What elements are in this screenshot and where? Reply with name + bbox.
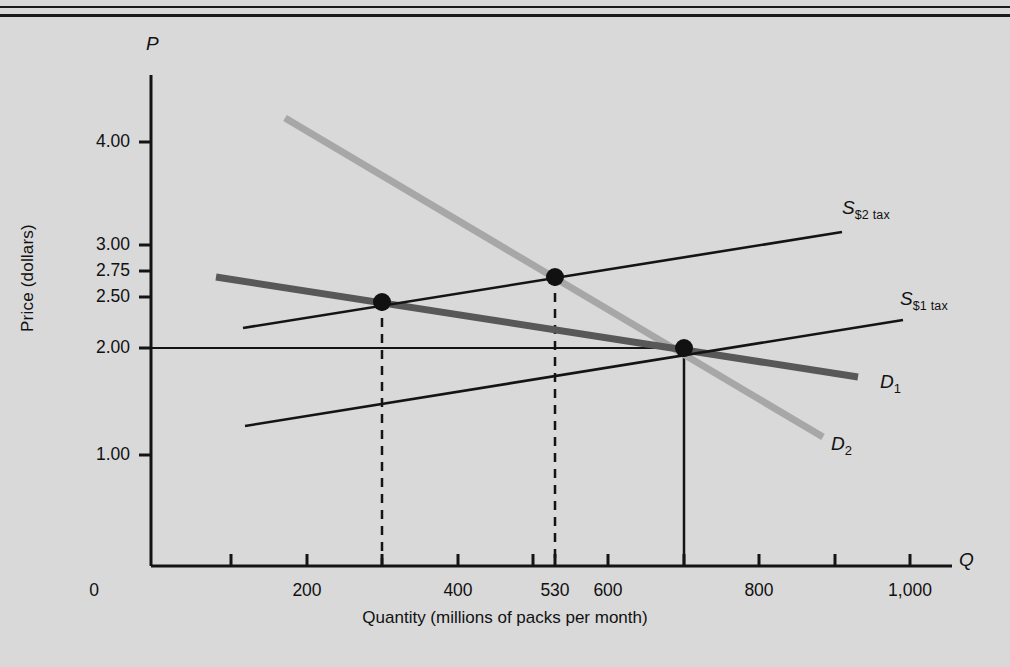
x-tick-label-600: 600 bbox=[578, 580, 638, 601]
x-tick-label-530: 530 bbox=[525, 580, 585, 601]
x-tick-label-1000: 1,000 bbox=[875, 580, 945, 601]
curve-label-S-2-tax: S$2 tax bbox=[842, 197, 890, 222]
x-tick-label-800: 800 bbox=[729, 580, 789, 601]
equilibrium-point-530-2.75 bbox=[546, 268, 564, 286]
curve-label-D2-sub: 2 bbox=[845, 443, 852, 458]
y-tick-label-3.00: 3.00 bbox=[26, 234, 130, 255]
y-tick-label-4.00: 4.00 bbox=[26, 131, 130, 152]
curve-label-D1-sub: 1 bbox=[894, 381, 901, 396]
y-tick-label-2.75: 2.75 bbox=[26, 260, 130, 281]
equilibrium-point-700-2.00 bbox=[675, 339, 693, 357]
y-tick-label-2.50: 2.50 bbox=[26, 286, 130, 307]
curve-label-S-2-tax-sub: $2 tax bbox=[855, 208, 890, 222]
curve-label-D1-base: D bbox=[880, 371, 894, 392]
curve-label-D2-base: D bbox=[831, 433, 845, 454]
x-axis-title: Quantity (millions of packs per month) bbox=[205, 608, 805, 628]
curve-label-S-1-tax-base: S bbox=[900, 288, 913, 309]
y-tick-label-2.00: 2.00 bbox=[26, 337, 130, 358]
figure-root: P Q 4.00 3.00 2.75 2.50 2.00 1.00 0 200 … bbox=[0, 0, 1010, 667]
y-tick-label-1.00: 1.00 bbox=[26, 444, 130, 465]
supply-curve-S-2-tax bbox=[243, 232, 842, 328]
y-axis-title: Price (dollars) bbox=[18, 188, 38, 368]
demand-curve-D1 bbox=[216, 277, 858, 377]
curve-label-S-1-tax-sub: $1 tax bbox=[913, 299, 948, 313]
x-tick-label-0: 0 bbox=[64, 580, 124, 601]
y-axis-letter: P bbox=[146, 33, 159, 55]
supply-demand-chart bbox=[0, 0, 1010, 667]
x-tick-label-400: 400 bbox=[428, 580, 488, 601]
curve-label-D2: D2 bbox=[831, 433, 852, 458]
x-axis-letter: Q bbox=[959, 549, 974, 571]
equilibrium-point-300-2.50 bbox=[373, 293, 391, 311]
x-tick-label-200: 200 bbox=[277, 580, 337, 601]
curve-label-S-1-tax: S$1 tax bbox=[900, 288, 948, 313]
curve-label-D1: D1 bbox=[880, 371, 901, 396]
curve-label-S-2-tax-base: S bbox=[842, 197, 855, 218]
